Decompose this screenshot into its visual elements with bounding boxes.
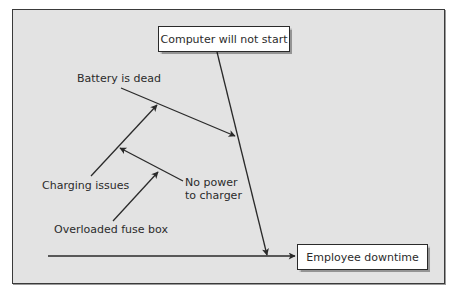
- primary-cause-box: Computer will not start: [158, 26, 290, 52]
- battery-arrow: [121, 88, 235, 136]
- cause-label-nopower-line1: No power: [185, 176, 242, 189]
- primary-cause-arrow: [217, 52, 267, 255]
- charging-arrow: [91, 105, 157, 176]
- cause-label-battery: Battery is dead: [77, 72, 161, 85]
- cause-label-nopower: No power to charger: [185, 176, 242, 202]
- nopower-arrow: [120, 148, 183, 181]
- cause-label-fuse: Overloaded fuse box: [54, 223, 168, 236]
- primary-cause-label: Computer will not start: [161, 33, 288, 46]
- cause-label-charging: Charging issues: [42, 179, 129, 192]
- effect-box: Employee downtime: [297, 244, 428, 270]
- cause-label-nopower-line2: to charger: [185, 189, 242, 202]
- effect-label: Employee downtime: [306, 251, 419, 264]
